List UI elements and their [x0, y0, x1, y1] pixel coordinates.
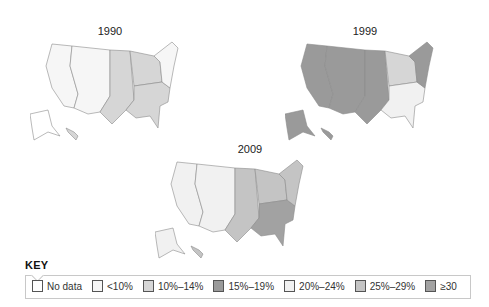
legend-item: 20%–24% — [284, 280, 345, 292]
legend-swatch — [425, 280, 436, 292]
region-west — [325, 46, 365, 114]
region-alaska — [155, 228, 185, 258]
legend-label: <10% — [107, 281, 133, 292]
map-panel-2009: 2009 — [150, 138, 350, 258]
legend-label: ≥30 — [440, 281, 457, 292]
us-map — [30, 36, 190, 146]
legend-item: ≥30 — [425, 280, 457, 292]
map-panel-1990: 1990 — [30, 20, 190, 140]
legend-label: No data — [47, 281, 82, 292]
legend-item: <10% — [92, 280, 133, 292]
region-alaska — [30, 110, 60, 140]
legend-items: No data<10%10%–14%15%–19%20%–24%25%–29%≥… — [32, 280, 457, 292]
map-panel-1999: 1999 — [280, 20, 460, 140]
region-west — [195, 164, 235, 232]
us-map — [155, 154, 315, 264]
legend-swatch — [32, 280, 43, 292]
region-west — [70, 46, 110, 114]
legend-label: 20%–24% — [299, 281, 345, 292]
region-alaska — [285, 110, 315, 140]
legend-label: 15%–19% — [228, 281, 274, 292]
legend-swatch — [213, 280, 224, 292]
legend-item: 10%–14% — [143, 280, 204, 292]
legend-swatch — [92, 280, 103, 292]
legend-item: 25%–29% — [355, 280, 416, 292]
legend-label: 25%–29% — [370, 281, 416, 292]
region-hawaii — [191, 246, 203, 258]
legend-swatch — [143, 280, 154, 292]
legend-item: No data — [32, 280, 82, 292]
legend-swatch — [284, 280, 295, 292]
legend-item: 15%–19% — [213, 280, 274, 292]
legend-swatch — [355, 280, 366, 292]
us-map — [285, 36, 445, 146]
legend-label: 10%–14% — [158, 281, 204, 292]
region-hawaii — [66, 128, 78, 140]
